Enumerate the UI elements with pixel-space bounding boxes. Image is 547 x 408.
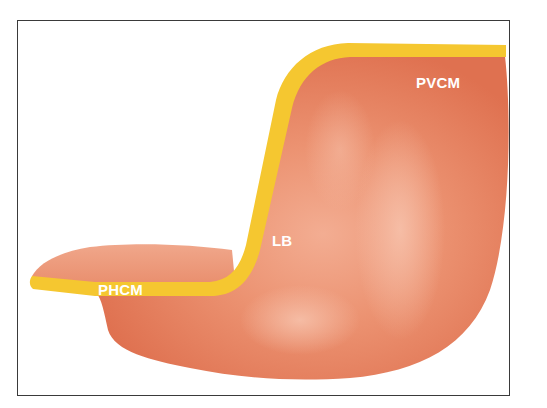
muscle-diagram	[0, 0, 547, 408]
label-lb: LB	[272, 233, 292, 248]
body-highlight	[240, 285, 360, 355]
label-pvcm: PVCM	[416, 75, 460, 90]
body-highlight	[305, 90, 375, 210]
label-phcm: PHCM	[98, 282, 143, 297]
